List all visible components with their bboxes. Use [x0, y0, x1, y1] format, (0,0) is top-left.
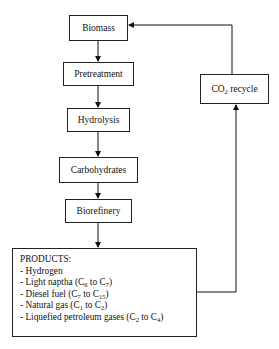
node-co2-recycle: CO2 recycle	[200, 74, 269, 104]
node-biorefinery: Biorefinery	[65, 199, 132, 223]
product-item: - Light naptha (C6 to C7)	[20, 277, 196, 289]
node-label: Biorefinery	[77, 206, 121, 216]
node-label: Pretreatment	[74, 69, 123, 79]
product-item: - Hydrogen	[20, 266, 196, 278]
node-products: PRODUCTS: - Hydrogen - Light naptha (C6 …	[12, 248, 197, 337]
products-title: PRODUCTS:	[20, 254, 196, 266]
node-label: Carbohydrates	[71, 165, 126, 175]
product-item: - Liquefied petroleum gases (C2 to C4)	[20, 312, 196, 324]
node-hydrolysis: Hydrolysis	[67, 108, 130, 132]
node-pretreatment: Pretreatment	[63, 62, 134, 86]
product-item: - Natural gas (C1 to C2)	[20, 300, 196, 312]
node-carbohydrates: Carbohydrates	[59, 157, 138, 183]
node-label: CO2 recycle	[211, 84, 257, 94]
node-biomass: Biomass	[69, 15, 128, 41]
node-label: Biomass	[82, 23, 115, 33]
node-label: Hydrolysis	[78, 115, 120, 125]
product-item: - Diesel fuel (C7 to C15)	[20, 289, 196, 301]
